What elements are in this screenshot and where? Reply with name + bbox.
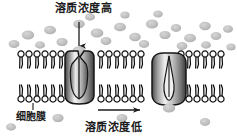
transport-protein-open	[65, 46, 94, 104]
bilayer-segment-left	[18, 51, 64, 102]
bilayer-segment-middle	[98, 51, 144, 102]
label-low-solute-concentration: 溶质浓度低	[85, 122, 142, 134]
label-high-solute-concentration: 溶质浓度高	[55, 3, 112, 15]
diagram-canvas: 溶质浓度高 细胞膜 溶质浓度低	[0, 0, 237, 139]
transport-protein-closed	[152, 53, 186, 113]
solute-particles-extracellular	[9, 10, 236, 50]
label-cell-membrane: 细胞膜	[16, 111, 47, 123]
